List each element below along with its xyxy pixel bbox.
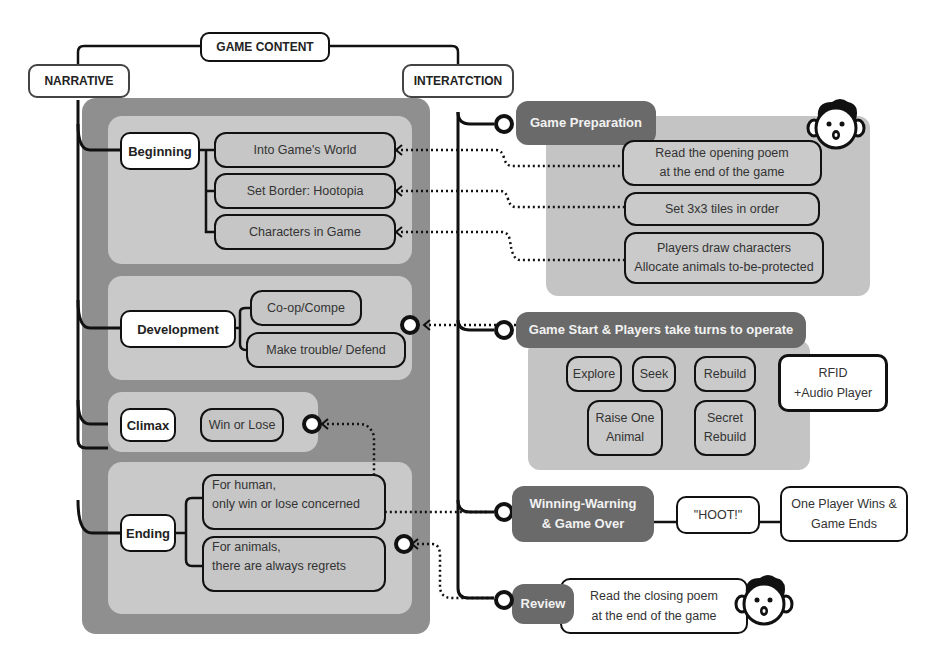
hoot-sound: "HOOT!" [676,496,760,534]
root-label: GAME CONTENT [216,40,313,54]
ending-item-2-line1: For animals, [212,538,281,557]
action-rebuild: Rebuild [694,356,756,392]
review-node [494,590,514,610]
preparation-item-1-line2: at the end of the game [659,163,784,182]
game-start-node [494,320,514,340]
ending-connector-node [394,534,414,554]
phase-winning-line1: Winning-Warning [530,494,637,514]
action-rebuild-label: Rebuild [704,365,746,384]
beginning-item-3: Characters in Game [214,214,396,250]
ending-item-2-line2: there are always regrets [212,557,346,576]
action-seek-label: Seek [640,365,669,384]
stage-climax: Climax [120,408,176,442]
beginning-item-1-label: Into Game's World [254,143,357,157]
owl-face-icon [806,96,866,154]
stage-climax-label: Climax [127,418,170,433]
phase-review-label: Review [521,594,566,614]
device-line2: +Audio Player [794,383,872,403]
stage-beginning: Beginning [120,132,200,170]
action-raise-line2: Animal [606,428,644,447]
phase-review: Review [512,584,574,624]
winning-node [494,502,514,522]
hoot-sound-label: "HOOT!" [694,505,742,525]
stage-development-label: Development [137,322,219,337]
stage-beginning-label: Beginning [128,144,192,159]
action-explore: Explore [566,356,622,392]
branch-interaction: INTERATCTION [402,64,514,98]
interaction-label: INTERATCTION [414,74,502,88]
preparation-node [494,114,514,134]
action-secret-line1: Secret [707,409,743,428]
development-connector-node [400,315,420,335]
action-explore-label: Explore [573,365,615,384]
winning-result: One Player Wins & Game Ends [780,486,908,542]
development-item-1-label: Co-op/Compe [267,301,345,315]
stage-ending-label: Ending [126,526,170,541]
preparation-item-1-line1: Read the opening poem [655,144,788,163]
ending-item-1-line1: For human, [212,476,276,495]
phase-game-start: Game Start & Players take turns to opera… [516,312,806,348]
development-item-2: Make trouble/ Defend [246,332,406,368]
preparation-item-2: Set 3x3 tiles in order [624,192,820,226]
preparation-item-3-line2: Allocate animals to-be-protected [634,258,813,277]
preparation-item-2-label: Set 3x3 tiles in order [665,200,779,219]
climax-item-1: Win or Lose [200,408,284,442]
beginning-item-2: Set Border: Hootopia [214,173,396,209]
action-raise-one-animal: Raise One Animal [587,400,663,456]
winning-result-line2: Game Ends [811,514,877,534]
phase-winning-line2: & Game Over [542,514,624,534]
stage-development: Development [120,310,236,348]
phase-game-start-label: Game Start & Players take turns to opera… [529,320,793,340]
device-rfid-audio-player: RFID +Audio Player [778,354,888,412]
review-line2: at the end of the game [591,606,716,626]
root-game-content: GAME CONTENT [200,32,330,62]
branch-narrative: NARRATIVE [28,64,130,98]
phase-preparation-label: Game Preparation [530,113,642,133]
owl-face-icon [734,572,794,630]
climax-connector-node [302,414,322,434]
winning-result-line1: One Player Wins & [791,494,897,514]
ending-item-1-line2: only win or lose concerned [212,495,360,514]
preparation-item-1: Read the opening poem at the end of the … [622,140,822,186]
phase-preparation: Game Preparation [516,101,656,145]
preparation-item-3-line1: Players draw characters [657,239,791,258]
action-raise-line1: Raise One [595,409,654,428]
beginning-item-3-label: Characters in Game [249,225,361,239]
narrative-label: NARRATIVE [44,74,113,88]
preparation-item-3: Players draw characters Allocate animals… [624,232,824,284]
climax-item-1-label: Win or Lose [209,418,276,432]
phase-winning: Winning-Warning & Game Over [512,486,654,542]
review-line1: Read the closing poem [590,586,718,606]
development-item-1: Co-op/Compe [250,290,362,326]
development-item-2-label: Make trouble/ Defend [266,343,386,357]
device-line1: RFID [818,363,847,383]
stage-ending: Ending [120,514,176,552]
ending-item-1: For human, only win or lose concerned [202,474,386,530]
action-secret-line2: Rebuild [704,428,746,447]
action-secret-rebuild: Secret Rebuild [694,400,756,456]
action-seek: Seek [632,356,676,392]
beginning-item-1: Into Game's World [214,132,396,168]
ending-item-2: For animals, there are always regrets [202,536,386,592]
review-description: Read the closing poem at the end of the … [560,578,748,634]
beginning-item-2-label: Set Border: Hootopia [247,184,364,198]
